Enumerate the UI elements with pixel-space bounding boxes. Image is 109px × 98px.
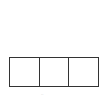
box-cell-2: [39, 58, 69, 86]
box-cell-3: [68, 58, 98, 86]
box-cell-1: [10, 58, 39, 86]
caption: ··: [41, 92, 44, 97]
box-row: [9, 57, 99, 87]
